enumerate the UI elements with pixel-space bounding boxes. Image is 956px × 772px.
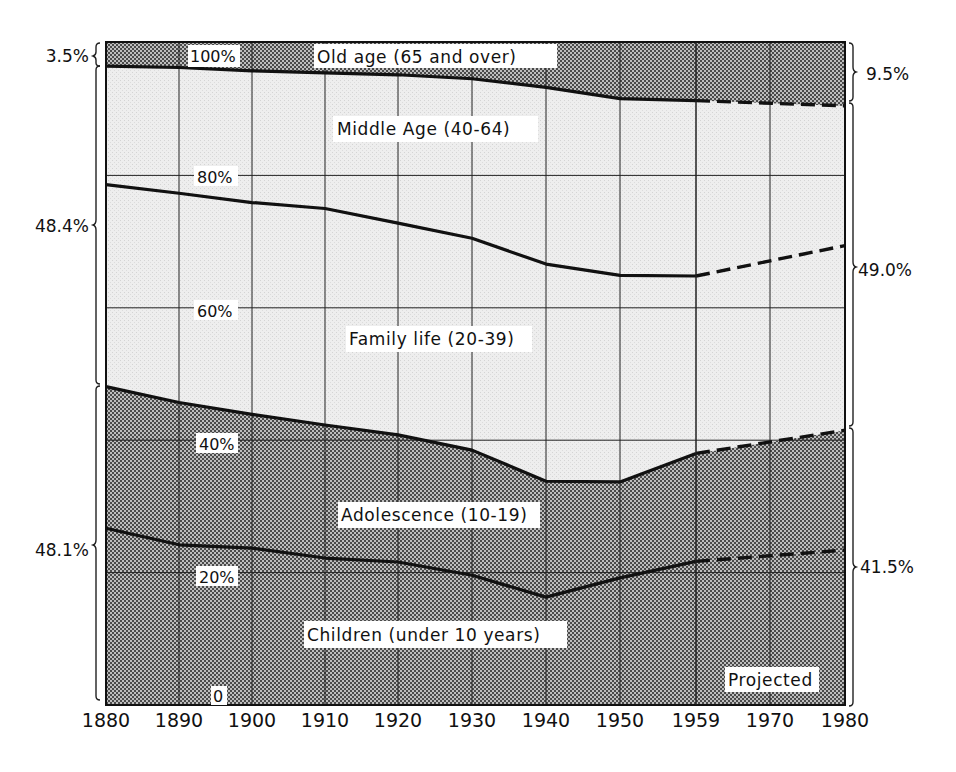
left-annotation-old-age: 3.5%: [46, 46, 89, 66]
y-tick-80: 80%: [197, 168, 233, 187]
y-tick-0: 0: [213, 687, 223, 706]
left-annotation-adol-children: 48.1%: [35, 540, 89, 560]
x-tick-1930: 1930: [448, 709, 496, 731]
label-adolescence: Adolescence (10-19): [341, 505, 527, 525]
x-tick-1920: 1920: [374, 709, 422, 731]
label-children: Children (under 10 years): [307, 625, 540, 645]
label-projected: Projected: [728, 670, 813, 690]
stacked-bands: [106, 43, 845, 705]
x-tick-1910: 1910: [301, 709, 349, 731]
right-brackets: [849, 43, 856, 706]
right-annotation-middle-family: 49.0%: [858, 260, 912, 280]
x-tick-1970: 1970: [746, 709, 794, 731]
label-middle-age: Middle Age (40-64): [337, 119, 510, 139]
x-tick-1980: 1980: [821, 709, 869, 731]
left-bracket-old-age: [93, 43, 100, 66]
x-tick-1900: 1900: [228, 709, 276, 731]
x-tick-1880: 1880: [82, 709, 130, 731]
left-bracket-middle-family: [93, 66, 100, 384]
x-tick-1959: 1959: [672, 709, 720, 731]
left-bracket-adol-children: [93, 386, 100, 700]
left-brackets: [93, 43, 100, 700]
x-tick-1940: 1940: [522, 709, 570, 731]
population-age-chart: 100% 80% 60% 40% 20% 0 Old age (65 and o…: [0, 0, 956, 772]
y-tick-60: 60%: [197, 302, 233, 321]
y-tick-40: 40%: [199, 435, 235, 454]
right-annotation-adol-children: 41.5%: [860, 557, 914, 577]
x-axis-labels: 1880 1890 1900 1910 1920 1930 1940 1950 …: [82, 709, 869, 731]
right-bracket-adol-children: [849, 428, 856, 706]
right-bracket-old-age: [849, 43, 856, 101]
left-annotation-middle-family: 48.4%: [35, 216, 89, 236]
right-annotation-old-age: 9.5%: [866, 64, 909, 84]
y-tick-100: 100%: [190, 47, 236, 66]
x-tick-1890: 1890: [155, 709, 203, 731]
right-bracket-middle-family: [849, 103, 856, 426]
label-family-life: Family life (20-39): [349, 329, 514, 349]
x-tick-1950: 1950: [596, 709, 644, 731]
y-tick-20: 20%: [199, 568, 235, 587]
label-old-age: Old age (65 and over): [317, 47, 517, 67]
